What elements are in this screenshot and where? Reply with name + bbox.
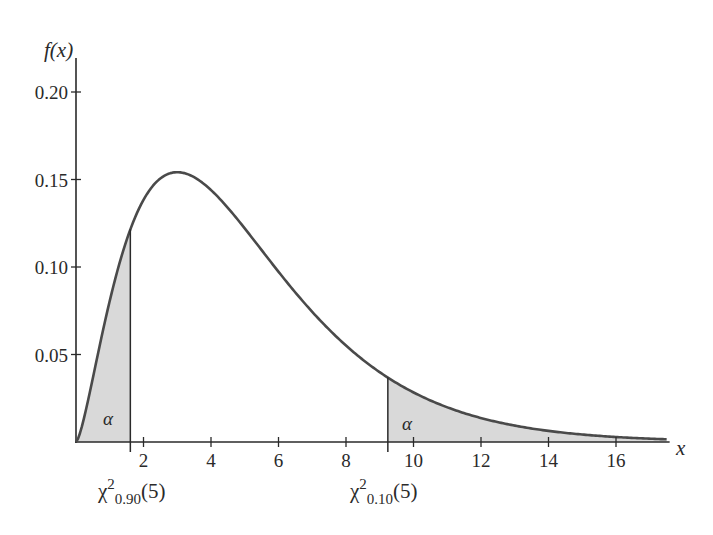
x-axis-label: x [675, 436, 686, 460]
y-tick-label: 0.10 [35, 257, 68, 278]
subscript: 0.90 [115, 491, 141, 507]
axes [75, 58, 670, 443]
x-tick-label: 16 [607, 450, 626, 471]
y-tick-label: 0.05 [35, 345, 68, 366]
y-axis-label: f(x) [44, 38, 73, 62]
critical-value-label-left: χ20.90(5) [97, 476, 166, 507]
x-tick-label: 10 [404, 450, 423, 471]
critical-value-label-right: χ20.10(5) [349, 476, 418, 507]
density-curve [76, 172, 667, 442]
chi-square-density-chart: 2468101214160.050.100.150.20 f(x) x α α … [0, 0, 713, 535]
df-argument: (5) [393, 479, 418, 503]
x-tick-label: 6 [274, 450, 284, 471]
df-argument: (5) [141, 479, 166, 503]
x-tick-label: 8 [341, 450, 351, 471]
alpha-label-right: α [402, 413, 413, 434]
x-tick-label: 12 [472, 450, 491, 471]
x-tick-label: 2 [139, 450, 149, 471]
shaded-tail-regions [76, 229, 667, 442]
y-tick-label: 0.15 [35, 170, 68, 191]
y-tick-label: 0.20 [35, 82, 68, 103]
superscript: 2 [107, 476, 115, 492]
x-tick-label: 4 [206, 450, 216, 471]
density-curve-path [76, 172, 667, 442]
shaded-region-upper-tail [388, 378, 667, 442]
superscript: 2 [359, 476, 367, 492]
critical-value-lines [130, 229, 388, 452]
x-tick-label: 14 [539, 450, 559, 471]
alpha-label-left: α [103, 408, 114, 429]
subscript: 0.10 [367, 491, 393, 507]
